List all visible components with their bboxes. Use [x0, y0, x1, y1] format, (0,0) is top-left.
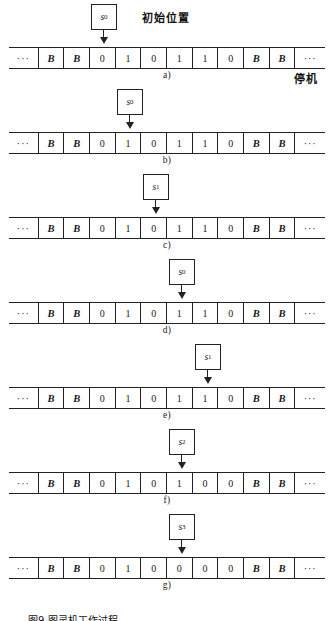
- step-label: b): [0, 155, 334, 165]
- tape-cell: 0: [141, 303, 167, 323]
- tape-cell: 0: [218, 133, 244, 153]
- tape-cell: B: [244, 558, 270, 578]
- tape-cell: 1: [193, 48, 219, 68]
- tape-cell: 0: [141, 473, 167, 493]
- tape-cell-ellipsis: ···: [295, 303, 325, 323]
- tape-cell: 1: [193, 218, 219, 238]
- tape-cell: 1: [167, 473, 193, 493]
- tape-cell: 1: [116, 133, 142, 153]
- tape-cell: B: [39, 388, 65, 408]
- tape-cell: B: [39, 48, 65, 68]
- tape: ···BB010110BB···: [9, 132, 325, 154]
- tape-cell: B: [64, 218, 90, 238]
- tape-cell-ellipsis: ···: [295, 388, 325, 408]
- head-arrow-icon: [204, 377, 212, 384]
- tape-step: s1···BB010110BB···e): [0, 340, 334, 425]
- tape-cell: 0: [90, 388, 116, 408]
- tape-cell: 0: [90, 133, 116, 153]
- state-box: s0: [91, 4, 117, 30]
- tape-cell: 1: [167, 303, 193, 323]
- tape-cell: 1: [167, 133, 193, 153]
- tape-cell: B: [64, 303, 90, 323]
- head-arrow-icon: [126, 122, 134, 129]
- step-label: c): [0, 240, 334, 250]
- tape-cell-ellipsis: ···: [9, 473, 39, 493]
- tape-cell: 1: [167, 218, 193, 238]
- tape-cell: 1: [116, 388, 142, 408]
- head-arrow-icon: [178, 547, 186, 554]
- tape-cell: 0: [218, 303, 244, 323]
- head-arrow-icon: [178, 462, 186, 469]
- tape-cell: 1: [116, 218, 142, 238]
- tape-cell: B: [270, 133, 296, 153]
- tape-cell: 0: [218, 218, 244, 238]
- step-label: g): [0, 580, 334, 590]
- tape-cell: 0: [193, 473, 219, 493]
- tape-cell: 0: [218, 388, 244, 408]
- tape-cell: B: [270, 473, 296, 493]
- tape-cell-ellipsis: ···: [9, 133, 39, 153]
- tape-cell-ellipsis: ···: [9, 218, 39, 238]
- step-label: e): [0, 410, 334, 420]
- tape-cell: 1: [193, 388, 219, 408]
- tape-cell: 0: [90, 218, 116, 238]
- tape-cell-ellipsis: ···: [295, 48, 325, 68]
- tape-cell: 1: [116, 48, 142, 68]
- tape-cell: 0: [141, 48, 167, 68]
- tape-cell: B: [64, 133, 90, 153]
- tape-cell: B: [270, 558, 296, 578]
- step-label: a): [0, 70, 334, 80]
- state-box: s1: [143, 174, 169, 200]
- tape-cell: B: [39, 558, 65, 578]
- read-write-head: s1: [143, 174, 169, 216]
- tape-step: s0···BB010110BB···b): [0, 85, 334, 170]
- tape-cell: 1: [193, 133, 219, 153]
- tape-cell: 0: [90, 48, 116, 68]
- tape-steps-container: s0···BB010110BB···a)s0···BB010110BB···b)…: [0, 0, 334, 595]
- tape-step: s0···BB010110BB···a): [0, 0, 334, 85]
- tape-cell: B: [39, 218, 65, 238]
- tape-cell: B: [64, 48, 90, 68]
- tape-cell-ellipsis: ···: [9, 558, 39, 578]
- tape-cell: 0: [141, 388, 167, 408]
- head-arrow-icon: [152, 207, 160, 214]
- tape-cell: 0: [218, 558, 244, 578]
- head-arrow-icon: [178, 292, 186, 299]
- tape-cell: 1: [167, 388, 193, 408]
- tape-cell: 0: [90, 303, 116, 323]
- tape-cell-ellipsis: ···: [295, 133, 325, 153]
- tape-cell: 1: [116, 558, 142, 578]
- tape-cell: B: [244, 133, 270, 153]
- tape-cell: 0: [167, 558, 193, 578]
- read-write-head: s0: [91, 4, 117, 46]
- tape-cell: 0: [141, 218, 167, 238]
- read-write-head: s2: [169, 429, 195, 471]
- tape-cell: B: [39, 303, 65, 323]
- tape-step: s3···BB010000BB···g): [0, 510, 334, 595]
- tape-cell: B: [244, 218, 270, 238]
- tape-cell: B: [244, 48, 270, 68]
- tape-cell: B: [244, 388, 270, 408]
- state-box: s0: [169, 259, 195, 285]
- tape-cell: 1: [193, 303, 219, 323]
- read-write-head: s3: [169, 514, 195, 556]
- tape-cell-ellipsis: ···: [295, 558, 325, 578]
- tape-cell: B: [39, 133, 65, 153]
- tape-cell: 0: [90, 558, 116, 578]
- figure-caption: 图9 图灵机工作过程: [28, 612, 118, 621]
- head-arrow-icon: [100, 37, 108, 44]
- tape-step: s2···BB010100BB···f): [0, 425, 334, 510]
- state-box: s1: [195, 344, 221, 370]
- tape-cell: B: [244, 473, 270, 493]
- tape-cell-ellipsis: ···: [295, 473, 325, 493]
- tape-cell: B: [270, 48, 296, 68]
- tape-cell: B: [270, 303, 296, 323]
- step-label: f): [0, 495, 334, 505]
- tape-cell: 0: [141, 133, 167, 153]
- tape-cell: 0: [218, 48, 244, 68]
- tape-cell: B: [270, 388, 296, 408]
- state-box: s0: [117, 89, 143, 115]
- tape-cell: B: [64, 388, 90, 408]
- tape-cell: 1: [116, 303, 142, 323]
- step-label: d): [0, 325, 334, 335]
